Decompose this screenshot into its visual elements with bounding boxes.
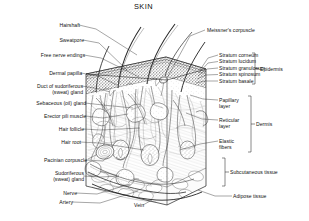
- label-vein: Vein: [118, 202, 144, 208]
- label-sudoriferous-gland: Sudoriferous (sweat) gland: [0, 170, 84, 182]
- label-stratum-granulosum: Stratum granulosum: [219, 65, 265, 71]
- label-erector-pili-muscle: Erector pili muscle: [0, 113, 86, 119]
- label-papillary-layer: Papillary layer: [219, 97, 239, 109]
- label-dermal-papilla: Dermal papilla: [0, 70, 82, 76]
- label-elastic-fibers: Elastic fibers: [219, 138, 234, 150]
- label-meissners-corpuscle: Meissner's corpuscle: [207, 27, 255, 33]
- label-dermis: Dermis: [256, 121, 272, 127]
- label-hair-root: Hair root: [0, 139, 81, 145]
- label-stratum-corneum: Stratum corneum: [219, 52, 258, 58]
- label-subcutaneous-tissue: Subcutaneous tissue: [230, 169, 278, 175]
- skin-cross-section-illustration: [0, 0, 309, 221]
- label-stratum-lucidum: Stratum lucidum: [219, 58, 256, 64]
- dermis-bracket: [248, 96, 251, 152]
- label-free-nerve-endings: Free nerve endings: [0, 52, 85, 58]
- label-sweatpore: Sweatpore: [0, 37, 84, 43]
- subcutaneous-bracket: [222, 158, 225, 186]
- label-pacinian-corpuscle: Pacinian corpuscle: [0, 157, 87, 163]
- label-nerve: Nerve: [0, 190, 77, 196]
- label-duct-of-sudoriferous-gland: Duct of sudoriferous (sweat) gland: [0, 83, 83, 95]
- label-sebaceous-gland: Sebaceous (oil) gland: [0, 100, 86, 106]
- label-artery: Artery: [0, 199, 73, 205]
- label-adipose-tissue: Adipose tissue: [233, 193, 266, 199]
- label-reticular-layer: Reticular layer: [219, 117, 239, 129]
- label-stratum-basale: Stratum basale: [219, 78, 254, 84]
- label-hair-follicle: Hair follicle: [0, 126, 84, 132]
- skin-diagram-page: SKIN: [0, 0, 309, 221]
- label-hairshaft: Hairshaft: [0, 22, 80, 28]
- label-stratum-spinosum: Stratum spinosum: [219, 71, 260, 77]
- label-epidermis: Epidermis: [260, 66, 283, 72]
